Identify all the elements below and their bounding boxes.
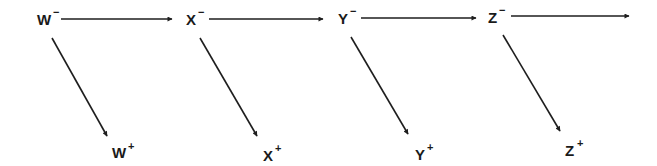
arrow-w-minus-to-w-plus (52, 38, 107, 136)
node-base: Y (415, 146, 425, 163)
node-base: Z (565, 142, 574, 159)
node-x-minus: X − (186, 6, 204, 28)
arrow-x-minus-to-x-plus (200, 38, 257, 136)
node-sign: + (128, 140, 134, 152)
node-x-plus: X + (263, 142, 281, 164)
node-z-minus: Z − (488, 4, 505, 26)
node-y-plus: Y + (415, 141, 433, 163)
node-w-minus: W − (37, 6, 59, 28)
node-base: Z (488, 9, 497, 26)
node-base: Y (338, 10, 348, 27)
node-sign: − (53, 6, 59, 18)
state-transition-diagram: W − X − Y − Z − W + X + Y + Z + (0, 0, 657, 166)
downward-arrows (52, 35, 560, 136)
node-sign: + (577, 137, 583, 149)
node-base: X (263, 147, 273, 164)
node-sign: − (198, 6, 204, 18)
node-z-plus: Z + (565, 137, 583, 159)
node-sign: − (499, 4, 505, 16)
node-base: W (112, 144, 127, 161)
arrow-y-minus-to-y-plus (351, 37, 408, 134)
node-sign: − (350, 5, 356, 17)
arrow-z-minus-to-z-plus (503, 35, 560, 131)
node-y-minus: Y − (338, 5, 356, 27)
node-base: X (186, 11, 196, 28)
node-base: W (37, 11, 52, 28)
node-sign: + (275, 142, 281, 154)
node-w-plus: W + (112, 140, 134, 161)
node-sign: + (427, 141, 433, 153)
